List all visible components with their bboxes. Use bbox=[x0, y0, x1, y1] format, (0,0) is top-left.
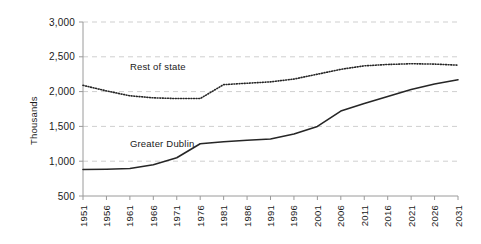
x-tick-label: 1951 bbox=[78, 205, 89, 227]
x-tick-label: 1971 bbox=[171, 205, 182, 227]
y-tick-label: 2,000 bbox=[49, 86, 75, 97]
series-label-greater-dublin: Greater Dublin bbox=[130, 138, 195, 149]
x-tick-label: 2026 bbox=[429, 205, 440, 227]
y-axis-ticks: 5001,0001,5002,0002,5003,000 bbox=[49, 17, 83, 202]
x-tick-label: 1966 bbox=[148, 205, 159, 227]
y-axis-title: Thousands bbox=[28, 96, 39, 145]
x-axis-ticks: 1951195619611966197119761981198619911996… bbox=[78, 196, 464, 227]
y-tick-label: 2,500 bbox=[49, 51, 75, 62]
x-tick-label: 2016 bbox=[382, 205, 393, 227]
x-tick-label: 1986 bbox=[242, 205, 253, 227]
y-tick-label: 3,000 bbox=[49, 17, 75, 28]
x-tick-label: 1961 bbox=[124, 205, 135, 227]
x-tick-label: 2011 bbox=[359, 205, 370, 226]
y-tick-label: 500 bbox=[58, 191, 76, 202]
x-tick-label: 1981 bbox=[218, 205, 229, 227]
x-tick-label: 1976 bbox=[195, 205, 206, 227]
x-tick-label: 1991 bbox=[265, 205, 276, 227]
x-tick-label: 2006 bbox=[335, 205, 346, 227]
x-tick-label: 1996 bbox=[288, 205, 299, 227]
x-tick-label: 1956 bbox=[101, 205, 112, 227]
chart-canvas: Thousands 5001,0001,5002,0002,5003,000 1… bbox=[0, 0, 481, 244]
y-tick-label: 1,000 bbox=[49, 156, 75, 167]
series-label-rest-of-state: Rest of state bbox=[130, 61, 186, 72]
x-tick-label: 2001 bbox=[312, 205, 323, 227]
y-tick-label: 1,500 bbox=[49, 121, 75, 132]
x-tick-label: 2021 bbox=[406, 205, 417, 227]
x-tick-label: 2031 bbox=[453, 205, 464, 227]
population-line-chart: Thousands 5001,0001,5002,0002,5003,000 1… bbox=[0, 0, 481, 244]
series-line-greater-dublin bbox=[83, 80, 458, 170]
y-axis-title-text: Thousands bbox=[28, 96, 39, 145]
